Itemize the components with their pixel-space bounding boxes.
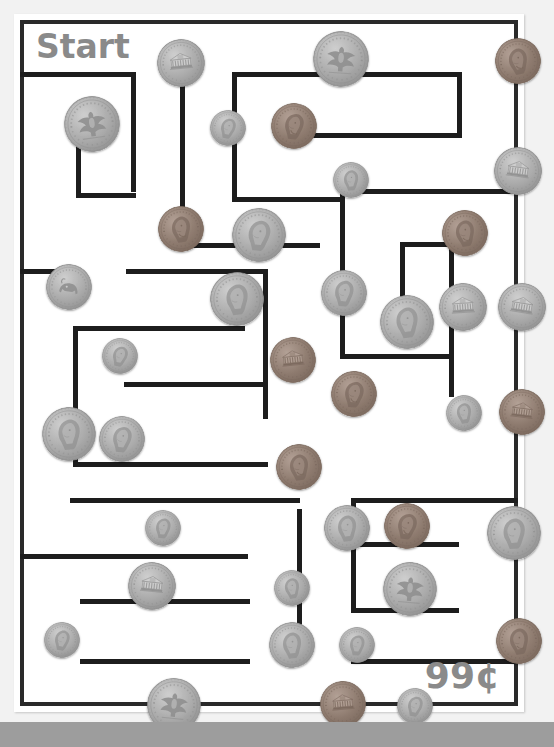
maze-wall: [70, 498, 300, 503]
coin-maze[interactable]: Start 99¢: [14, 14, 524, 712]
maze-wall: [20, 554, 248, 559]
maze-wall: [340, 354, 454, 359]
start-label: Start: [36, 30, 130, 63]
maze-wall: [80, 659, 250, 664]
page-bottom-strip: [0, 722, 554, 747]
maze-wall: [73, 462, 268, 467]
maze-wall: [131, 72, 136, 192]
maze-wall: [406, 498, 518, 503]
maze-wall: [340, 189, 518, 194]
maze-wall: [232, 197, 340, 202]
maze-wall: [457, 72, 462, 138]
worksheet-paper: Start 99¢: [14, 14, 524, 712]
maze-wall: [124, 382, 268, 387]
maze-wall: [20, 72, 136, 77]
maze-wall: [76, 193, 136, 198]
maze-wall: [340, 189, 345, 249]
target-amount-label: 99¢: [425, 658, 500, 694]
maze-wall: [73, 326, 245, 331]
maze-wall: [263, 269, 268, 419]
worksheet-sheet: Start 99¢: [0, 0, 554, 722]
